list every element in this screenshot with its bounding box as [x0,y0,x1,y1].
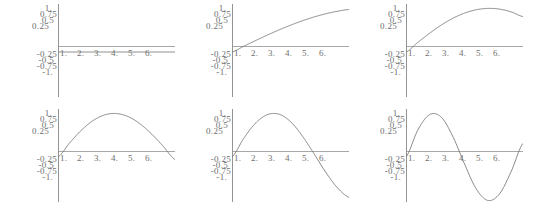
plot-panel: 1.0.750.50.25-0.25-0.5-0.75-1.1.2.3.4.5.… [0,105,179,209]
sine-curve [406,8,523,52]
plot-panel: 1.0.750.50.25-0.25-0.5-0.75-1.1.2.3.4.5.… [348,0,527,104]
plot-area [58,109,175,205]
plot-panel: 1.0.750.50.25-0.25-0.5-0.75-1.1.2.3.4.5.… [0,0,179,104]
curve-canvas [58,4,175,100]
y-axis-tick-label: 0.25 [380,22,397,31]
plot-area [406,4,523,100]
y-axis-tick-label: 0.25 [32,22,49,31]
curve-canvas [406,4,523,100]
y-axis-tick-label: 0.25 [380,127,397,136]
plot-panel: 1.0.750.50.25-0.25-0.5-0.75-1.1.2.3.4.5.… [174,0,353,104]
sine-curve [232,113,349,197]
y-axis-tick-label: 0.25 [206,127,223,136]
plot-area [232,109,349,205]
plot-area [406,109,523,205]
plot-area [232,4,349,100]
y-axis-tick-label: -1. [390,68,401,77]
curve-canvas [232,109,349,205]
y-axis-tick-labels: 1.0.750.50.25-0.25-0.5-0.75-1. [0,0,58,104]
plot-panel: 1.0.750.50.25-0.25-0.5-0.75-1.1.2.3.4.5.… [174,105,353,209]
y-axis-tick-labels: 1.0.750.50.25-0.25-0.5-0.75-1. [348,0,406,104]
y-axis-tick-labels: 1.0.750.50.25-0.25-0.5-0.75-1. [348,105,406,209]
curve-canvas [58,109,175,205]
plot-grid: 1.0.750.50.25-0.25-0.5-0.75-1.1.2.3.4.5.… [0,0,536,209]
sine-curve [58,113,175,159]
y-axis-tick-label: 0.25 [206,22,223,31]
curve-canvas [232,4,349,100]
y-axis-tick-label: -1. [216,173,227,182]
plot-area [58,4,175,100]
y-axis-tick-label: -1. [390,173,401,182]
y-axis-tick-label: -1. [42,173,53,182]
y-axis-tick-labels: 1.0.750.50.25-0.25-0.5-0.75-1. [174,105,232,209]
sine-curve [406,114,523,201]
y-axis-tick-labels: 1.0.750.50.25-0.25-0.5-0.75-1. [0,105,58,209]
plot-panel: 1.0.750.50.25-0.25-0.5-0.75-1.1.2.3.4.5.… [348,105,527,209]
y-axis-tick-labels: 1.0.750.50.25-0.25-0.5-0.75-1. [174,0,232,104]
y-axis-tick-label: -1. [216,68,227,77]
curve-canvas [406,109,523,205]
sine-curve [232,10,349,53]
y-axis-tick-label: 0.25 [32,127,49,136]
y-axis-tick-label: -1. [42,68,53,77]
